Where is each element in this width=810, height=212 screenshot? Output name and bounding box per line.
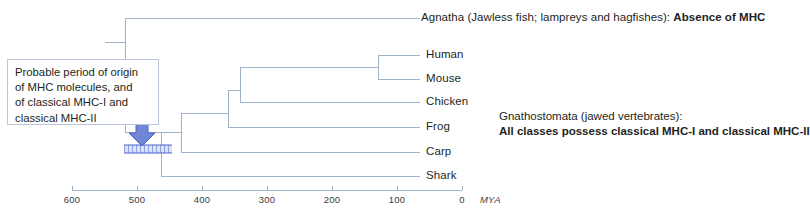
axis-tick-100: 100 xyxy=(383,194,411,205)
callout-line-1: Probable period of origin xyxy=(15,65,152,80)
time-axis xyxy=(72,186,462,190)
tip-label-human: Human xyxy=(426,48,464,60)
callout-line-4: classical MHC-II xyxy=(15,111,152,126)
axis-tick-500: 500 xyxy=(123,194,151,205)
axis-unit-label: MYA xyxy=(480,194,501,205)
callout-line-2: of MHC molecules, and xyxy=(15,80,152,95)
tip-label-chicken: Chicken xyxy=(426,95,468,107)
axis-tick-200: 200 xyxy=(318,194,346,205)
agnatha-annotation-normal: Agnatha (Jawless fish; lampreys and hagf… xyxy=(421,11,673,23)
tip-label-carp: Carp xyxy=(426,145,451,157)
tip-label-frog: Frog xyxy=(426,120,450,132)
origin-period-band xyxy=(124,145,172,153)
callout-line-3: of classical MHC-I and xyxy=(15,95,152,110)
gnathostomata-annotation-line2: All classes possess classical MHC-I and … xyxy=(499,124,810,139)
axis-tick-300: 300 xyxy=(253,194,281,205)
origin-period-callout-box: Probable period of origin of MHC molecul… xyxy=(7,59,159,125)
tip-label-shark: Shark xyxy=(426,169,457,181)
gnathostomata-annotation-line1: Gnathostomata (jawed vertebrates): xyxy=(499,109,810,124)
axis-tick-400: 400 xyxy=(188,194,216,205)
axis-tick-0: 0 xyxy=(448,194,476,205)
agnatha-annotation-bold: Absence of MHC xyxy=(673,11,765,23)
tip-label-mouse: Mouse xyxy=(426,72,461,84)
gnathostomata-annotation: Gnathostomata (jawed vertebrates): All c… xyxy=(499,109,810,139)
axis-tick-600: 600 xyxy=(58,194,86,205)
agnatha-annotation: Agnatha (Jawless fish; lampreys and hagf… xyxy=(421,11,765,23)
